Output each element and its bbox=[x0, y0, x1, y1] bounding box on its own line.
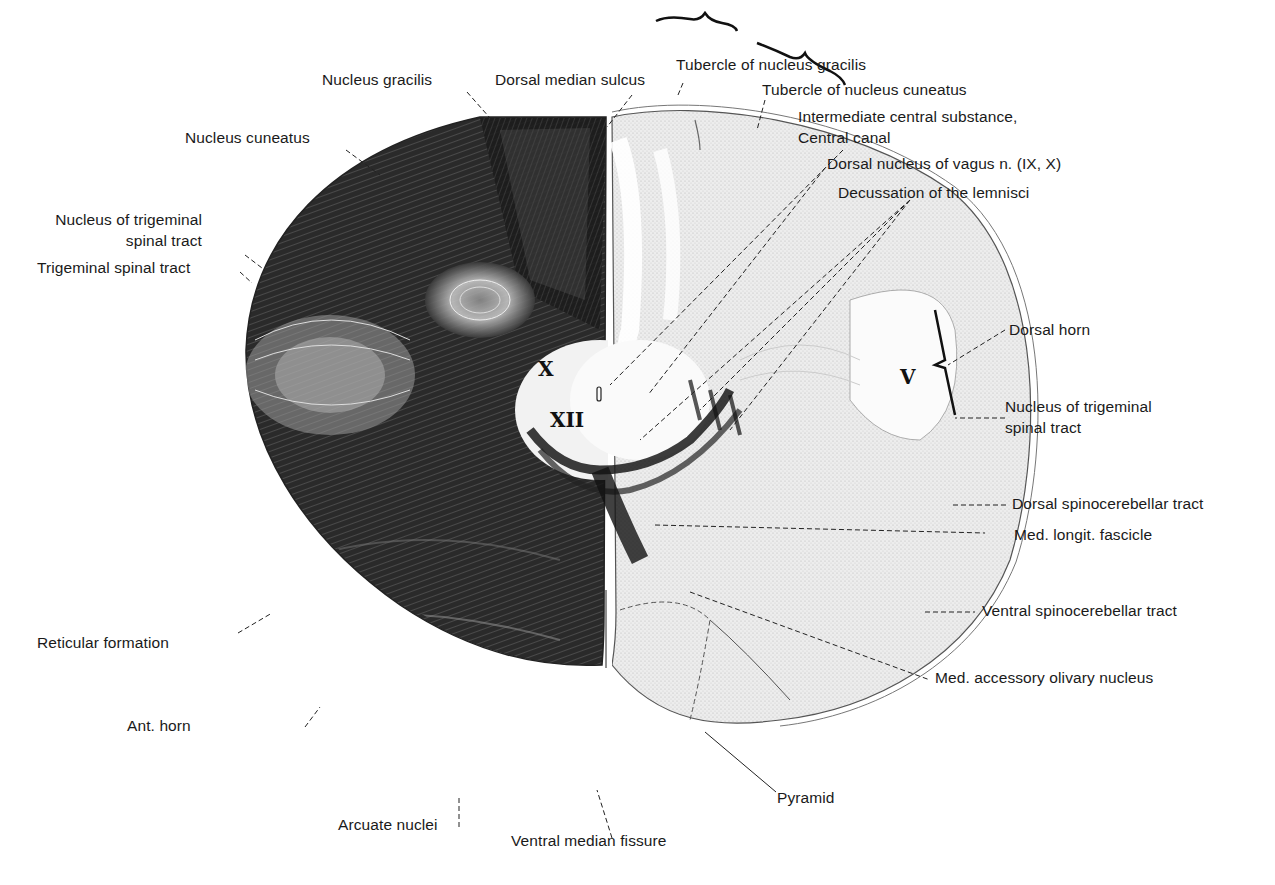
label-decussation-lemnisci: Decussation of the lemnisci bbox=[838, 183, 1029, 202]
label-pyramid: Pyramid bbox=[777, 788, 835, 807]
label-med-accessory-olivary-nucleus: Med. accessory olivary nucleus bbox=[935, 668, 1153, 687]
label-nucleus-cuneatus: Nucleus cuneatus bbox=[185, 128, 310, 147]
label-tubercle-nucleus-cuneatus: Tubercle of nucleus cuneatus bbox=[762, 80, 967, 99]
label-dorsal-horn: Dorsal horn bbox=[1009, 320, 1090, 339]
label-dorsal-median-sulcus: Dorsal median sulcus bbox=[495, 70, 645, 89]
label-med-longit-fascicle: Med. longit. fascicle bbox=[1014, 525, 1152, 544]
label-nucleus-gracilis: Nucleus gracilis bbox=[322, 70, 432, 89]
label-nucleus-trigeminal-left-1: Nucleus of trigeminal bbox=[55, 210, 202, 229]
label-tubercle-nucleus-gracilis: Tubercle of nucleus gracilis bbox=[676, 55, 866, 74]
label-intermediate-central-substance: Intermediate central substance, bbox=[798, 107, 1017, 126]
label-nucleus-trigeminal-right-2: spinal tract bbox=[1005, 418, 1081, 437]
label-dorsal-nucleus-vagus: Dorsal nucleus of vagus n. (IX, X) bbox=[827, 154, 1061, 173]
label-central-canal: Central canal bbox=[798, 128, 891, 147]
roman-numeral-v: V bbox=[900, 365, 916, 389]
label-arcuate-nuclei: Arcuate nuclei bbox=[338, 815, 438, 834]
label-nucleus-trigeminal-left-2: spinal tract bbox=[126, 231, 202, 250]
roman-numeral-xii: XII bbox=[550, 408, 584, 432]
label-reticular-formation: Reticular formation bbox=[37, 633, 169, 652]
medulla-cross-section-figure: X XII V Nucleus gracilis Dorsal median s… bbox=[0, 0, 1275, 885]
label-dorsal-spinocerebellar-tract: Dorsal spinocerebellar tract bbox=[1012, 494, 1203, 513]
label-trigeminal-spinal-tract: Trigeminal spinal tract bbox=[37, 258, 190, 277]
label-ventral-spinocerebellar-tract: Ventral spinocerebellar tract bbox=[982, 601, 1177, 620]
label-ant-horn: Ant. horn bbox=[127, 716, 191, 735]
roman-numeral-x: X bbox=[538, 357, 554, 381]
label-ventral-median-fissure: Ventral median fissure bbox=[511, 831, 667, 850]
label-nucleus-trigeminal-right-1: Nucleus of trigeminal bbox=[1005, 397, 1152, 416]
